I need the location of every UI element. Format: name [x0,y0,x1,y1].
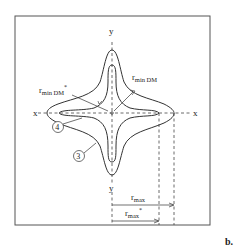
r-min-dm-star-sub: min DM [42,89,64,96]
annotation-r-min-dm: rmin DM [114,72,157,111]
annotation-r-min-dm-star: rmin DM* [39,84,108,111]
curve-3-label: 3 [74,143,97,162]
svg-text:rmax*: rmax* [125,207,142,219]
x-axis-label-right: x [193,108,198,118]
diagram-canvas: x x y y rmin DM* rmin DM 4 3 rmax [0,0,239,251]
svg-text:rmin DM: rmin DM [132,72,157,83]
x-axis-label-left: x [33,108,38,118]
annotation-r-max: rmax [112,192,174,207]
r-min-dm-star-sup: * [64,84,67,90]
curve-3-number: 3 [76,152,80,161]
panel-label: b. [225,236,234,247]
r-max-star-sup: * [139,207,142,213]
annotation-r-max-star: rmax* [112,207,159,223]
y-axis-label-top: y [109,26,114,36]
curve-4-number: 4 [55,123,59,132]
r-min-dm-sub: min DM [135,76,157,83]
figure-frame [15,16,210,225]
curve-3-leader [84,143,96,153]
axes [38,42,190,225]
svg-text:rmin DM*: rmin DM* [39,84,67,96]
svg-text:rmax: rmax [131,192,146,203]
r-max-star-sub: max [128,212,140,219]
curve-4-leader [63,118,82,124]
r-max-sub: max [134,196,146,203]
y-axis-label-bottom: y [109,183,114,193]
